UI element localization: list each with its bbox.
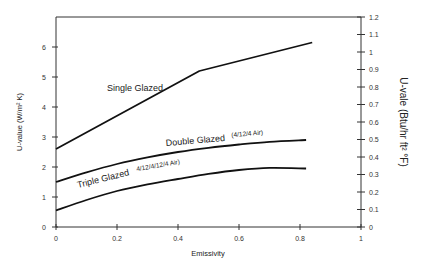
y-tick-label-right: 0.8 — [369, 84, 379, 91]
x-tick-label: 0.8 — [295, 235, 305, 242]
x-axis-title: Emissivity — [191, 249, 225, 258]
y-tick-label: 3 — [42, 134, 46, 141]
y-tick-label: 6 — [42, 44, 46, 51]
y-axis-title-left: U-value (W/m² K) — [15, 93, 24, 151]
u-value-chart: 00.20.40.60.81012345600.10.20.30.40.50.6… — [0, 0, 425, 269]
label-double-glazed-config: (4/12/4 Air) — [231, 129, 263, 140]
y-tick-label-right: 0.7 — [369, 101, 379, 108]
y-tick-label-right: 1.1 — [369, 31, 379, 38]
y-tick-label-right: 0.2 — [369, 189, 379, 196]
y-tick-label-right: 0.6 — [369, 119, 379, 126]
x-tick-label: 1 — [359, 235, 363, 242]
series-line-triple-glazed — [56, 168, 306, 211]
y-tick-label: 0 — [42, 224, 46, 231]
y-tick-label: 1 — [42, 194, 46, 201]
label-double-glazed-name: Double Glazed — [165, 133, 225, 148]
x-tick-label: 0.2 — [112, 235, 122, 242]
y-tick-label-right: 0.3 — [369, 171, 379, 178]
x-tick-label: 0 — [54, 235, 58, 242]
y-tick-label: 2 — [42, 164, 46, 171]
y-axis-title-right: U-vale (Btu/hr ft² °F) — [398, 77, 409, 167]
y-tick-label: 5 — [42, 74, 46, 81]
series-labels: Single GlazedDouble Glazed(4/12/4 Air)Tr… — [76, 83, 264, 191]
label-single-glazed: Single Glazed — [107, 83, 163, 93]
label-triple-glazed-config: 4/12/4/12/4 Air) — [136, 158, 181, 174]
x-tick-label: 0.4 — [173, 235, 183, 242]
y-tick-label-right: 0.4 — [369, 154, 379, 161]
label-triple-glazed-name: Triple Glazed — [76, 167, 130, 190]
axes: 00.20.40.60.81012345600.10.20.30.40.50.6… — [42, 14, 379, 243]
y-tick-label-right: 0.5 — [369, 136, 379, 143]
y-tick-label: 4 — [42, 104, 46, 111]
y-tick-label-right: 0 — [369, 224, 373, 231]
series-line-single-glazed — [56, 43, 312, 150]
x-tick-label: 0.6 — [234, 235, 244, 242]
y-tick-label-right: 0.9 — [369, 66, 379, 73]
y-tick-label-right: 1 — [369, 49, 373, 56]
label-triple-glazed: Triple Glazed4/12/4/12/4 Air) — [76, 155, 181, 191]
y-tick-label-right: 1.2 — [369, 14, 379, 21]
y-tick-label-right: 0.1 — [369, 206, 379, 213]
label-double-glazed: Double Glazed(4/12/4 Air) — [165, 129, 263, 148]
